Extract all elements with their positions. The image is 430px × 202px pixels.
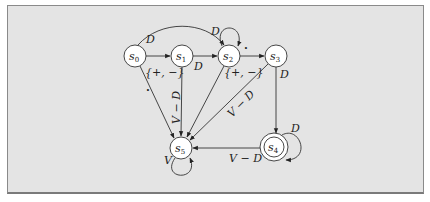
label-s0-s1: {+, −}: [145, 66, 184, 79]
label-s1-s2: D: [193, 60, 203, 73]
node-s1: s1: [171, 45, 193, 67]
label-s2-s3: ·: [244, 42, 248, 55]
edge-s5-s5: [172, 158, 192, 175]
label-s1-s5: V − D: [170, 91, 183, 124]
state-diagram: s0 s1 s2 s3 s4 s5 {+, −} D · D V − D D ·…: [0, 0, 430, 202]
label-s3-s4: D: [279, 68, 289, 81]
edge-s2-s5: [187, 66, 224, 137]
node-s5: s5: [170, 137, 192, 159]
label-s2-s2: D: [210, 25, 220, 38]
label-s4-s5: V − D: [229, 152, 262, 165]
node-s3: s3: [265, 45, 287, 67]
label-s4-s4: D: [290, 122, 300, 135]
label-s2-s5: {+, −}: [224, 66, 263, 79]
node-s4-accepting: s4: [260, 133, 288, 161]
node-s0: s0: [124, 45, 146, 67]
node-s2: s2: [218, 45, 240, 67]
label-s0-s2: D: [145, 33, 155, 46]
label-s5-s5: V: [164, 154, 173, 167]
label-s0-s5: ·: [146, 84, 150, 97]
label-s3-s5: V − D: [225, 87, 258, 120]
